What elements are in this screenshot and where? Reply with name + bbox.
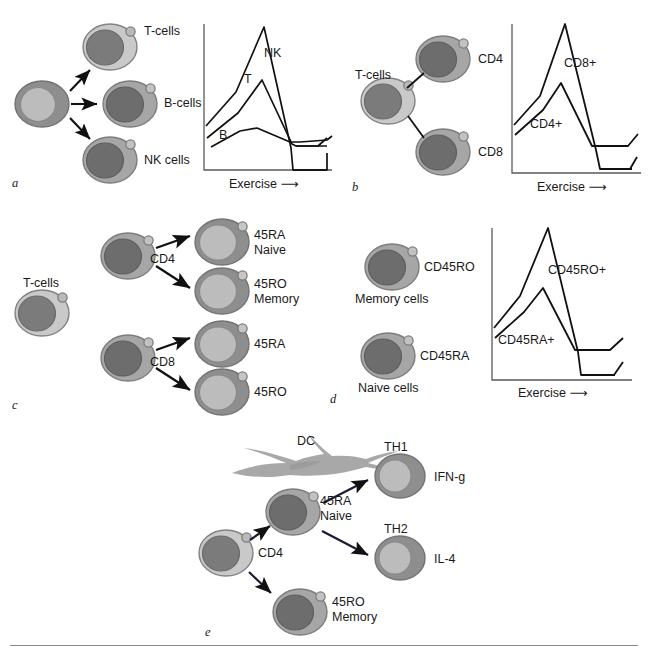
panel-a-series-b — [211, 128, 332, 147]
chart-d-series-label-cd45ro: CD45RO+ — [548, 263, 606, 277]
label-nk-cells-a: NK cells — [144, 153, 190, 167]
panel-c-cell-45ro-memory — [195, 268, 249, 314]
chart-a-series-label-t: T — [244, 72, 252, 86]
label-t-cells-a: T-cells — [144, 24, 180, 38]
panel-letter-a: a — [12, 176, 18, 191]
figure-canvas — [0, 0, 648, 655]
panel-b-chart — [512, 24, 641, 173]
panel-a-cell-nk — [83, 137, 137, 183]
label-cd8-b: CD8 — [478, 145, 503, 159]
chart-a-xlabel-text: Exercise — [229, 177, 277, 191]
label-45ro-c: 45RO — [254, 385, 287, 399]
panel-b-cell-cd8 — [416, 129, 470, 175]
panel-c-cell-cd8 — [101, 335, 155, 381]
chart-b-series-label-cd4: CD4+ — [530, 117, 562, 131]
panel-letter-e: e — [205, 625, 211, 640]
chart-a-xarrow-icon: ⟶ — [280, 177, 298, 191]
label-b-cells-a: B-cells — [164, 96, 202, 110]
panel-e-cell-naive — [266, 489, 320, 535]
panel-a-cell-t — [83, 24, 137, 70]
label-cd4-b: CD4 — [478, 52, 503, 66]
label-th2-e: TH2 — [384, 522, 408, 536]
chart-d-xlabel-text: Exercise — [518, 386, 566, 400]
panel-d-chart — [492, 228, 632, 380]
label-branch-cd4-c: CD4 — [150, 252, 175, 266]
chart-b-xlabel-text: Exercise — [537, 180, 585, 194]
label-ifng-e: IFN-g — [434, 470, 465, 484]
panel-c-cell-45ro — [195, 369, 249, 415]
panel-b-series-cd4 — [515, 83, 638, 146]
panel-letter-d: d — [330, 392, 336, 407]
chart-b-series-label-cd8: CD8+ — [564, 56, 596, 70]
panel-c-cell-45ra-naive — [195, 219, 249, 265]
label-45ra-naive-c-line2: Naive — [254, 243, 286, 257]
label-45ra-c: 45RA — [254, 337, 285, 351]
panel-c-cell-cd4 — [101, 233, 155, 279]
label-45ro-e: 45RO — [332, 595, 365, 609]
figure-root: a b c d e T-cells B-cells NK cells NK T … — [0, 0, 648, 655]
label-45ro-memory-c-line1: 45RO — [254, 277, 287, 291]
label-45ro-memory-c-line2: Memory — [254, 292, 299, 306]
panel-c — [15, 219, 249, 415]
label-naive-e: Naive — [320, 509, 352, 523]
panel-b-cell-t — [361, 78, 415, 124]
label-naive-cells-d: Naive cells — [358, 381, 418, 395]
bottom-divider — [10, 645, 638, 646]
label-il4-e: IL-4 — [434, 552, 456, 566]
chart-d-xarrow-icon: ⟶ — [569, 386, 587, 400]
panel-e-cell-cd4 — [199, 530, 253, 576]
panel-d-series-cd45ro — [494, 228, 615, 375]
panel-letter-b: b — [352, 180, 358, 195]
panel-c-cell-source — [15, 290, 69, 336]
panel-c-cell-45ra — [195, 321, 249, 367]
label-memory-e: Memory — [332, 610, 377, 624]
label-cd4-e: CD4 — [258, 546, 283, 560]
label-t-cells-c: T-cells — [23, 276, 59, 290]
label-memory-cells-d: Memory cells — [355, 292, 429, 306]
label-t-cells-b: T-cells — [355, 68, 391, 82]
panel-b-series-cd8 — [514, 24, 632, 169]
panel-d-cell-naive — [361, 333, 415, 379]
chart-b-xarrow-icon: ⟶ — [588, 180, 606, 194]
panel-d-cell-memory — [365, 244, 419, 290]
panel-e-cell-th1 — [375, 454, 425, 498]
chart-a-xlabel: Exercise ⟶ — [229, 176, 298, 191]
chart-d-xlabel: Exercise ⟶ — [518, 385, 587, 400]
panel-a-cell-stem — [15, 81, 69, 127]
label-cd45ra-d: CD45RA — [420, 349, 469, 363]
panel-b-cell-cd4 — [416, 36, 470, 82]
label-th1-e: TH1 — [384, 440, 408, 454]
chart-a-series-label-nk: NK — [264, 46, 281, 60]
chart-b-xlabel: Exercise ⟶ — [537, 179, 606, 194]
chart-d-series-label-cd45ra: CD45RA+ — [498, 333, 555, 347]
panel-a-cell-b — [103, 81, 157, 127]
label-dc-e: DC — [297, 434, 315, 448]
label-cd45ro-d: CD45RO — [424, 260, 475, 274]
panel-a-arrows — [70, 70, 97, 139]
panel-letter-c: c — [12, 398, 18, 413]
panel-e-cell-memory — [273, 589, 327, 635]
panel-e-cell-th2 — [375, 536, 425, 580]
label-45ra-e: 45RA — [320, 494, 351, 508]
label-branch-cd8-c: CD8 — [150, 355, 175, 369]
label-45ra-naive-c-line1: 45RA — [254, 228, 285, 242]
chart-a-series-label-b: B — [219, 128, 227, 142]
